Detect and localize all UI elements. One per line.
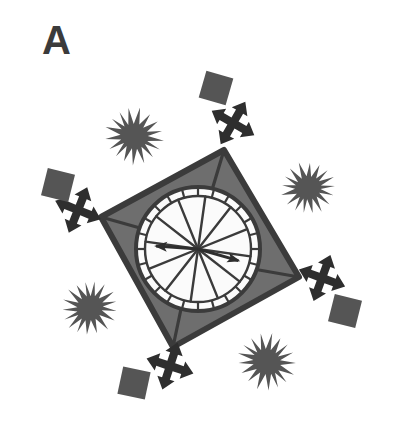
schematic-diagram-svg <box>0 0 401 440</box>
square-left <box>41 168 75 202</box>
central-circle-group <box>136 187 260 311</box>
starburst-top-right <box>273 153 344 223</box>
square-top <box>199 71 234 106</box>
square-right <box>328 294 362 328</box>
figure-canvas: A <box>0 0 401 440</box>
square-bottom <box>117 366 150 399</box>
starburst-bottom-left <box>50 268 130 348</box>
starburst-top-left <box>99 101 170 170</box>
starburst-bottom-right <box>229 324 305 399</box>
